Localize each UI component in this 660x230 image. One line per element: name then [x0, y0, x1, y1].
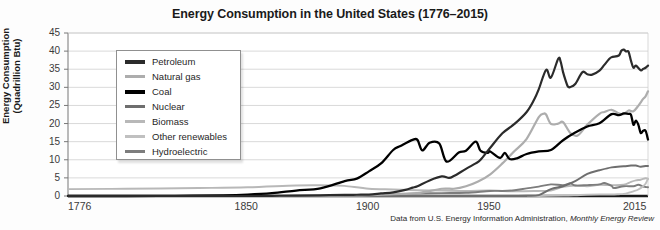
x-tick-label: 1850 [235, 200, 258, 212]
legend-item[interactable]: Biomass [117, 114, 240, 129]
x-tick-label: 2015 [623, 200, 646, 212]
y-tick-label: 0 [34, 190, 60, 201]
y-tick-label: 5 [34, 172, 60, 183]
legend-item-label: Hydroelectric [152, 146, 207, 157]
legend-swatch-icon [125, 120, 145, 123]
legend-item-label: Other renewables [152, 131, 227, 142]
y-tick-label: 10 [34, 154, 60, 165]
legend-items: PetroleumNatural gasCoalNuclearBiomassOt… [117, 54, 240, 159]
source-note: Data from U.S. Energy Information Admini… [390, 214, 654, 223]
legend-item[interactable]: Coal [117, 84, 240, 99]
legend-item-label: Petroleum [152, 56, 195, 67]
y-tick-label: 25 [34, 99, 60, 110]
legend-swatch-icon [125, 105, 145, 108]
y-tick-label: 45 [34, 27, 60, 38]
legend-item[interactable]: Petroleum [117, 54, 240, 69]
legend-item-label: Biomass [152, 116, 188, 127]
y-tick-label: 40 [34, 45, 60, 56]
source-note-text: Data from U.S. Energy Information Admini… [390, 214, 570, 223]
legend-swatch-icon [125, 150, 145, 153]
y-tick-label: 20 [34, 118, 60, 129]
legend-item-label: Nuclear [152, 101, 185, 112]
x-tick-label: 1900 [356, 200, 379, 212]
legend-swatch-icon [125, 75, 145, 78]
legend-item-label: Coal [152, 86, 172, 97]
legend-swatch-icon [125, 90, 145, 94]
x-tick-label: 1950 [477, 200, 500, 212]
legend-swatch-icon [125, 60, 145, 64]
y-tick-label: 30 [34, 81, 60, 92]
legend-swatch-icon [125, 135, 145, 138]
legend-item[interactable]: Natural gas [117, 69, 240, 84]
x-tick-label: 1776 [68, 200, 91, 212]
legend-item[interactable]: Hydroelectric [117, 144, 240, 159]
legend-item[interactable]: Other renewables [117, 129, 240, 144]
source-note-publication: Monthly Energy Review [570, 214, 654, 223]
y-tick-label: 35 [34, 63, 60, 74]
chart-figure: Energy Consumption in the United States … [0, 0, 660, 230]
plot-area [0, 0, 660, 230]
legend-item[interactable]: Nuclear [117, 99, 240, 114]
chart-legend: PetroleumNatural gasCoalNuclearBiomassOt… [116, 50, 241, 160]
legend-item-label: Natural gas [152, 71, 201, 82]
y-tick-label: 15 [34, 136, 60, 147]
